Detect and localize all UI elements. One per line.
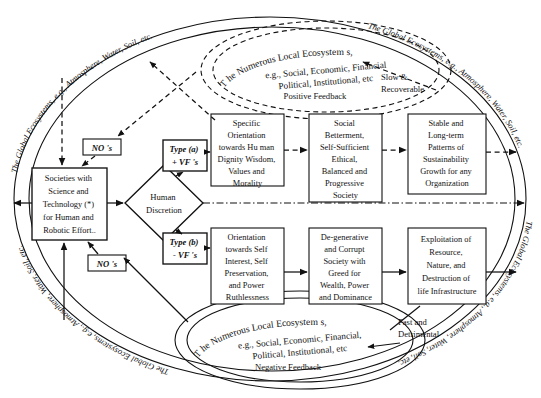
- human-discretion-diamond[interactable]: [125, 165, 203, 241]
- positive-feedback-label: Positive Feedback: [284, 91, 347, 101]
- edge-no-lower-to-societies: [88, 242, 98, 254]
- edge-upper-1-to-top-ellipse: [150, 62, 215, 120]
- negative-feedback-label: Negative Feedback: [255, 362, 322, 372]
- no-label-lower-text: NO 's: [96, 259, 118, 269]
- edge-top-ellipse-to-no-upper: [118, 72, 196, 136]
- outer-label-top-left: The Global Ecosystems, e.g., Atmosphere,…: [9, 31, 154, 174]
- no-label-upper-text: NO 's: [91, 143, 113, 153]
- edge-no-upper-to-societies: [82, 156, 95, 166]
- diagram-canvas: The Global Ecosystems, e.g., Atmosphere,…: [0, 0, 541, 398]
- diagram-svg: The Global Ecosystems, e.g., Atmosphere,…: [0, 0, 541, 398]
- edge-bottom-ellipse-to-no-lower: [124, 258, 188, 322]
- edge-discretion-to-type-a: [176, 172, 183, 176]
- edge-fast-detrimental: [368, 343, 400, 347]
